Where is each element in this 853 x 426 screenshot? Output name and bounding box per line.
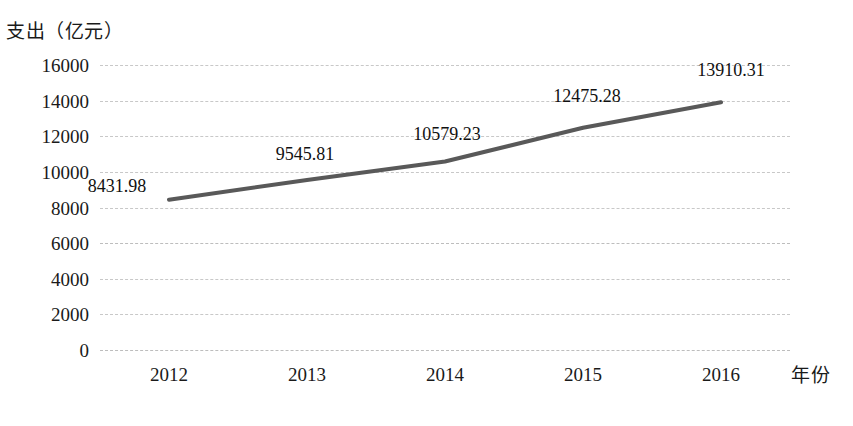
y-tick-label: 0 [0, 341, 89, 360]
y-axis-tick-labels: 0200040006000800010000120001400016000 [0, 0, 89, 426]
y-tick-label: 16000 [0, 56, 89, 75]
data-point-label: 13910.31 [697, 60, 765, 80]
y-tick-label: 10000 [0, 162, 89, 181]
data-point-label: 8431.98 [88, 176, 147, 196]
y-tick-label: 12000 [0, 127, 89, 146]
y-tick-label: 4000 [0, 269, 89, 288]
x-tick-label: 2014 [426, 364, 464, 386]
figure-caption [0, 422, 853, 426]
data-point-label: 9545.81 [276, 144, 335, 164]
y-tick-label: 2000 [0, 305, 89, 324]
y-tick-label: 14000 [0, 91, 89, 110]
series-polyline [169, 102, 721, 200]
data-point-label: 12475.28 [553, 86, 621, 106]
y-tick-label: 6000 [0, 234, 89, 253]
y-tick-label: 8000 [0, 198, 89, 217]
x-tick-label: 2012 [150, 364, 188, 386]
chart-figure: 支出（亿元） 020004000600080001000012000140001… [0, 0, 853, 426]
x-axis-tick-labels: 20122013201420152016 [100, 364, 790, 390]
data-point-label: 10579.23 [413, 124, 481, 144]
x-tick-label: 2016 [702, 364, 740, 386]
gridline [100, 350, 790, 351]
x-tick-label: 2015 [564, 364, 602, 386]
plot-area: 8431.989545.8110579.2312475.2813910.31 [100, 65, 790, 350]
x-tick-label: 2013 [288, 364, 326, 386]
line-series [100, 65, 790, 350]
x-axis-title: 年份 [791, 365, 830, 387]
